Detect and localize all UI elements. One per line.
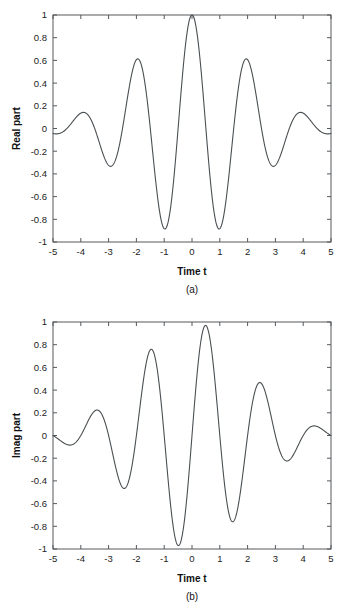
y-tick-label: -0.8 xyxy=(31,214,47,225)
y-tick-label: 0.8 xyxy=(34,339,47,350)
x-tick-label: -2 xyxy=(132,246,140,257)
y-tick-label: -0.2 xyxy=(31,453,47,464)
y-tick-label: 0.6 xyxy=(34,55,47,66)
x-tick-label: -4 xyxy=(77,553,85,564)
x-tick-label: -5 xyxy=(49,246,57,257)
x-tick-label: 3 xyxy=(273,246,278,257)
y-tick-label: 0 xyxy=(42,123,47,134)
y-tick-label: -0.4 xyxy=(31,475,47,486)
y-tick-label: 1 xyxy=(42,9,47,20)
x-tick-label: 1 xyxy=(217,246,222,257)
y-tick-label: 0 xyxy=(42,430,47,441)
y-tick-label: 0.8 xyxy=(34,32,47,43)
y-tick-label: 0.2 xyxy=(34,100,47,111)
x-tick-label: -3 xyxy=(104,246,112,257)
panel-caption: (b) xyxy=(186,591,198,602)
x-tick-label: -1 xyxy=(160,553,168,564)
x-tick-label: -4 xyxy=(77,246,85,257)
x-tick-label: 2 xyxy=(245,246,250,257)
figure-panel-b: -5-4-3-2-1012345-1-0.8-0.6-0.4-0.200.20.… xyxy=(0,307,352,614)
y-tick-label: 0.6 xyxy=(34,362,47,373)
y-tick-label: -0.4 xyxy=(31,168,47,179)
x-tick-label: -5 xyxy=(49,553,57,564)
y-tick-label: -0.6 xyxy=(31,191,47,202)
y-tick-label: 0.4 xyxy=(34,78,47,89)
x-tick-label: 0 xyxy=(189,246,194,257)
y-tick-label: 0.2 xyxy=(34,407,47,418)
figure-panel-a: -5-4-3-2-1012345-1-0.8-0.6-0.4-0.200.20.… xyxy=(0,0,352,307)
y-tick-label: -0.6 xyxy=(31,498,47,509)
x-tick-label: -2 xyxy=(132,553,140,564)
y-tick-label: 0.4 xyxy=(34,385,47,396)
plot-area-real-part: -5-4-3-2-1012345-1-0.8-0.6-0.4-0.200.20.… xyxy=(0,0,352,307)
y-axis-title: Real part xyxy=(11,106,22,149)
x-tick-label: -3 xyxy=(104,553,112,564)
x-tick-label: -1 xyxy=(160,246,168,257)
y-axis-title: Imag part xyxy=(11,412,22,458)
y-tick-label: -1 xyxy=(39,543,47,554)
data-curve xyxy=(53,15,331,229)
x-tick-label: 5 xyxy=(328,246,333,257)
y-tick-label: -0.8 xyxy=(31,521,47,532)
x-tick-label: 3 xyxy=(273,553,278,564)
x-tick-label: 1 xyxy=(217,553,222,564)
x-axis-title: Time t xyxy=(177,573,207,584)
x-axis-title: Time t xyxy=(177,266,207,277)
y-tick-label: -0.2 xyxy=(31,146,47,157)
x-tick-label: 2 xyxy=(245,553,250,564)
x-tick-label: 4 xyxy=(301,553,306,564)
data-curve xyxy=(53,325,331,545)
plot-area-imag-part: -5-4-3-2-1012345-1-0.8-0.6-0.4-0.200.20.… xyxy=(0,307,352,614)
panel-caption: (a) xyxy=(186,284,198,295)
y-tick-label: -1 xyxy=(39,236,47,247)
y-tick-label: 1 xyxy=(42,316,47,327)
x-tick-label: 5 xyxy=(328,553,333,564)
x-tick-label: 0 xyxy=(189,553,194,564)
x-tick-label: 4 xyxy=(301,246,306,257)
